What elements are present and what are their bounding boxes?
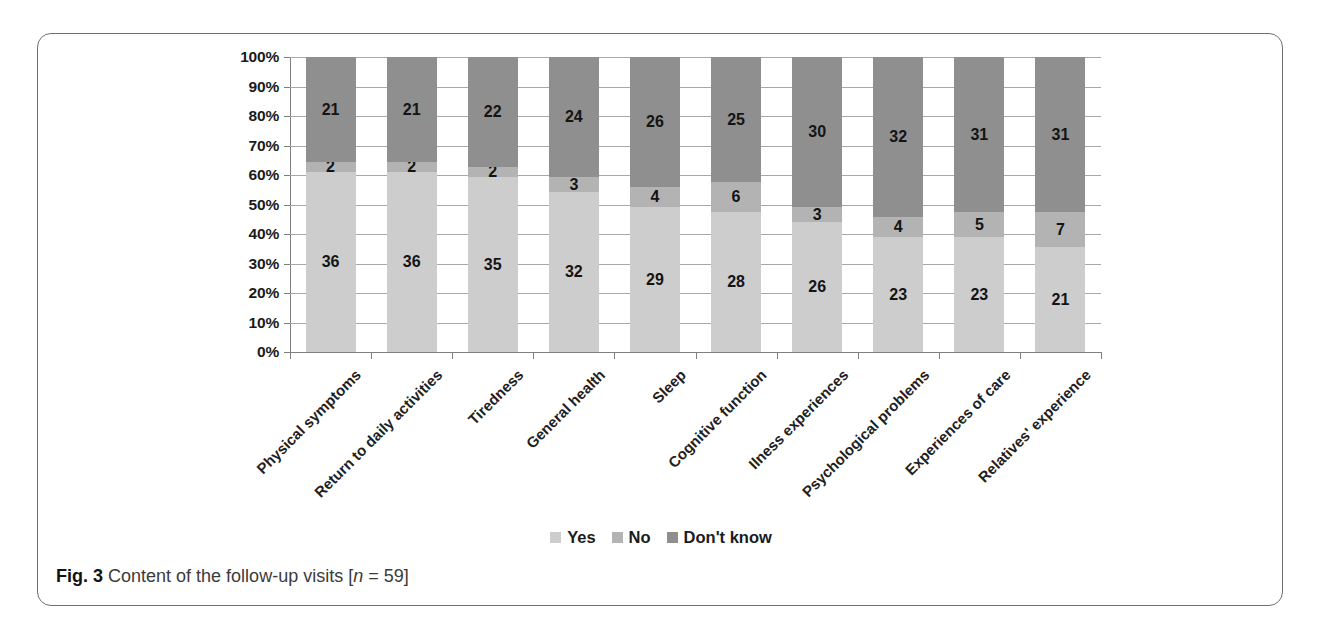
bar-column[interactable]: 28625 bbox=[711, 57, 761, 352]
legend-item[interactable]: Don't know bbox=[667, 529, 772, 546]
legend-label: No bbox=[629, 529, 651, 546]
bar-value-label: 36 bbox=[387, 254, 437, 270]
y-tick-mark-90 bbox=[284, 87, 290, 88]
bar-segment[interactable]: 23 bbox=[954, 237, 1004, 352]
x-category-label: Tiredness bbox=[465, 366, 527, 428]
bar-segment[interactable]: 26 bbox=[630, 57, 680, 187]
bar-segment[interactable]: 23 bbox=[873, 237, 923, 352]
bar-segment[interactable]: 36 bbox=[306, 172, 356, 352]
bar-segment[interactable]: 32 bbox=[873, 57, 923, 217]
bar-value-label: 21 bbox=[306, 102, 356, 118]
bar-value-label: 29 bbox=[630, 272, 680, 288]
bar-segment[interactable]: 4 bbox=[630, 187, 680, 207]
legend-label: Yes bbox=[567, 529, 595, 546]
x-tick-mark-8 bbox=[939, 352, 940, 359]
caption-n-symbol: n bbox=[353, 566, 363, 586]
bar-value-label: 5 bbox=[954, 217, 1004, 233]
chart-legend: YesNoDon't know bbox=[38, 529, 1284, 546]
x-category-label: Sleep bbox=[649, 366, 689, 406]
caption-n-value: = 59] bbox=[363, 566, 409, 586]
bar-column[interactable]: 29426 bbox=[630, 57, 680, 352]
x-tick-mark-5 bbox=[696, 352, 697, 359]
y-tick-label-0: 0% bbox=[219, 344, 279, 360]
y-tick-label-70: 70% bbox=[219, 138, 279, 154]
bar-segment[interactable]: 2 bbox=[387, 162, 437, 172]
bar-segment[interactable]: 24 bbox=[549, 57, 599, 177]
bar-column[interactable]: 21731 bbox=[1035, 57, 1085, 352]
x-tick-mark-6 bbox=[777, 352, 778, 359]
legend-item[interactable]: Yes bbox=[550, 529, 595, 546]
bar-segment[interactable]: 28 bbox=[711, 212, 761, 352]
y-tick-mark-80 bbox=[284, 116, 290, 117]
bar-value-label: 4 bbox=[630, 189, 680, 205]
bar-value-label: 3 bbox=[549, 177, 599, 193]
bar-value-label: 4 bbox=[873, 219, 923, 235]
bar-value-label: 22 bbox=[468, 104, 518, 120]
y-tick-mark-60 bbox=[284, 175, 290, 176]
bar-segment[interactable]: 21 bbox=[1035, 247, 1085, 352]
bar-value-label: 3 bbox=[792, 207, 842, 223]
bar-value-label: 26 bbox=[792, 279, 842, 295]
bar-value-label: 26 bbox=[630, 114, 680, 130]
bar-segment[interactable]: 2 bbox=[306, 162, 356, 172]
bar-column[interactable]: 32324 bbox=[549, 57, 599, 352]
y-tick-mark-40 bbox=[284, 234, 290, 235]
y-tick-label-20: 20% bbox=[219, 285, 279, 301]
y-tick-label-10: 10% bbox=[219, 315, 279, 331]
x-tick-mark-0 bbox=[290, 352, 291, 359]
x-tick-mark-9 bbox=[1020, 352, 1021, 359]
bar-column[interactable]: 36221 bbox=[306, 57, 356, 352]
bar-segment[interactable]: 31 bbox=[1035, 57, 1085, 212]
bar-value-label: 24 bbox=[549, 109, 599, 125]
x-tick-mark-10 bbox=[1101, 352, 1102, 359]
legend-swatch-no bbox=[612, 532, 623, 543]
x-tick-mark-7 bbox=[858, 352, 859, 359]
bar-segment[interactable]: 31 bbox=[954, 57, 1004, 212]
bar-segment[interactable]: 3 bbox=[549, 177, 599, 192]
bar-value-label: 23 bbox=[954, 287, 1004, 303]
y-tick-mark-70 bbox=[284, 146, 290, 147]
bar-segment[interactable]: 35 bbox=[468, 177, 518, 352]
bar-column[interactable]: 36221 bbox=[387, 57, 437, 352]
y-tick-mark-30 bbox=[284, 264, 290, 265]
chart-area: 100%90%80%70%60%50%40%30%20%10%0% 362213… bbox=[38, 34, 1284, 534]
bar-column[interactable]: 35222 bbox=[468, 57, 518, 352]
caption-text: Content of the follow-up visits [ bbox=[108, 566, 353, 586]
bar-segment[interactable]: 3 bbox=[792, 207, 842, 222]
bar-column[interactable]: 23531 bbox=[954, 57, 1004, 352]
bar-value-label: 32 bbox=[549, 264, 599, 280]
plot-area: 3622136221352223232429426286252633023432… bbox=[290, 57, 1101, 352]
y-tick-label-50: 50% bbox=[219, 197, 279, 213]
bar-segment[interactable]: 32 bbox=[549, 192, 599, 352]
bar-segment[interactable]: 21 bbox=[306, 57, 356, 162]
y-tick-mark-20 bbox=[284, 293, 290, 294]
bar-value-label: 31 bbox=[954, 127, 1004, 143]
bar-column[interactable]: 26330 bbox=[792, 57, 842, 352]
bar-segment[interactable]: 22 bbox=[468, 57, 518, 167]
bar-segment[interactable]: 6 bbox=[711, 182, 761, 212]
bar-value-label: 7 bbox=[1035, 222, 1085, 238]
bar-segment[interactable]: 7 bbox=[1035, 212, 1085, 247]
figure-caption: Fig. 3 Content of the follow-up visits [… bbox=[56, 566, 1256, 588]
y-tick-label-60: 60% bbox=[219, 167, 279, 183]
y-tick-mark-50 bbox=[284, 205, 290, 206]
bar-segment[interactable]: 30 bbox=[792, 57, 842, 207]
bar-segment[interactable]: 29 bbox=[630, 207, 680, 352]
y-tick-label-90: 90% bbox=[219, 79, 279, 95]
bar-value-label: 21 bbox=[1035, 292, 1085, 308]
bar-segment[interactable]: 36 bbox=[387, 172, 437, 352]
bar-value-label: 35 bbox=[468, 257, 518, 273]
x-category-label: General health bbox=[522, 366, 608, 452]
bar-value-label: 25 bbox=[711, 112, 761, 128]
legend-item[interactable]: No bbox=[612, 529, 651, 546]
bar-segment[interactable]: 4 bbox=[873, 217, 923, 237]
bar-segment[interactable]: 21 bbox=[387, 57, 437, 162]
bar-segment[interactable]: 2 bbox=[468, 167, 518, 177]
legend-label: Don't know bbox=[684, 529, 772, 546]
figure-number: Fig. 3 bbox=[56, 566, 103, 586]
legend-swatch-yes bbox=[550, 532, 561, 543]
bar-segment[interactable]: 26 bbox=[792, 222, 842, 352]
bar-column[interactable]: 23432 bbox=[873, 57, 923, 352]
bar-segment[interactable]: 5 bbox=[954, 212, 1004, 237]
bar-segment[interactable]: 25 bbox=[711, 57, 761, 182]
